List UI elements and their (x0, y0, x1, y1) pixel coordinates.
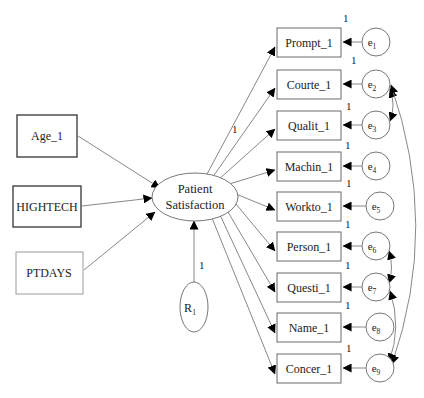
error-weight: 1 (346, 100, 352, 112)
loading-prompt (206, 47, 275, 176)
predictor-hightech: HIGHTECH (13, 186, 81, 227)
latent-label-line1: Patient (178, 182, 213, 196)
residual-weight: 1 (199, 259, 205, 271)
predictor-label: PTDAYS (26, 266, 72, 280)
cov-e6-e7 (389, 251, 392, 283)
indicator-questi: Questi_1 e7 1 (277, 259, 390, 302)
latent-label-line2: Satisfaction (165, 198, 225, 212)
loading-workto (236, 194, 275, 210)
latent-patient-satisfaction: Patient Satisfaction (152, 173, 238, 221)
loading-person (236, 204, 275, 251)
indicator-workto: Workto_1 e5 1 (277, 177, 394, 221)
residual-label: R (184, 301, 192, 315)
predictor-label: Age_1 (31, 129, 63, 143)
path-ptdays-to-satisfaction (84, 212, 155, 270)
fixed-loading-label: 1 (232, 123, 238, 135)
error-weight: 1 (346, 177, 352, 189)
indicator-name: Name_1 e8 1 (277, 299, 394, 342)
indicator-person: Person_1 e6 1 (277, 218, 390, 261)
cov-e2-e9 (391, 85, 416, 364)
error-weight: 1 (345, 218, 351, 230)
error-weight: 1 (345, 299, 351, 311)
residual-subscript: 1 (192, 308, 196, 317)
indicator-label: Courte_1 (287, 78, 332, 92)
sem-diagram: Age_1 HIGHTECH PTDAYS Patient Satisfacti… (0, 0, 424, 398)
cov-e2-e3 (390, 89, 393, 121)
loading-courte (212, 88, 275, 178)
predictor-paths (78, 136, 160, 270)
error-weight: 1 (346, 342, 352, 354)
indicator-qualit: Qualit_1 e3 1 (277, 100, 390, 140)
error-paths (343, 42, 366, 368)
path-age-to-satisfaction (78, 136, 160, 188)
predictor-age: Age_1 (17, 115, 77, 157)
indicator-label: Concer_1 (286, 362, 333, 376)
indicator-label: Person_1 (287, 240, 332, 254)
indicator-label: Workto_1 (285, 200, 333, 214)
indicator-courte: Courte_1 e2 1 (277, 54, 390, 99)
loading-concer (212, 218, 275, 374)
error-weight: 1 (345, 139, 351, 151)
indicator-label: Prompt_1 (285, 36, 332, 50)
indicator-label: Name_1 (289, 321, 330, 335)
indicator-label: Machin_1 (285, 160, 334, 174)
predictor-ptdays: PTDAYS (16, 252, 83, 294)
indicator-label: Qualit_1 (288, 119, 330, 133)
error-weight: 1 (351, 54, 357, 66)
loading-questi (228, 212, 275, 292)
indicator-machin: Machin_1 e4 1 (277, 139, 390, 181)
loading-name (220, 215, 275, 333)
predictor-label: HIGHTECH (16, 200, 78, 214)
error-weight: 1 (343, 12, 349, 24)
indicator-prompt: Prompt_1 e1 1 (277, 12, 390, 57)
indicator-label: Questi_1 (287, 281, 330, 295)
path-hightech-to-satisfaction (82, 198, 152, 206)
loading-machin (226, 170, 275, 185)
error-weight: 1 (345, 259, 351, 271)
indicator-concer: Concer_1 e9 1 (277, 342, 394, 383)
